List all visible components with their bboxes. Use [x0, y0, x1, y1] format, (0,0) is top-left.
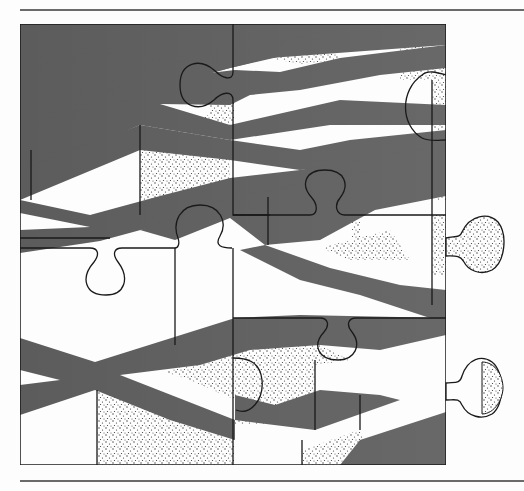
- puzzle-tab-right-upper: [446, 216, 504, 272]
- puzzle-tab-stipple: [482, 362, 503, 414]
- puzzle-frame: [20, 24, 446, 465]
- loose-tabs: [446, 216, 504, 417]
- puzzle-illustration: [0, 0, 524, 491]
